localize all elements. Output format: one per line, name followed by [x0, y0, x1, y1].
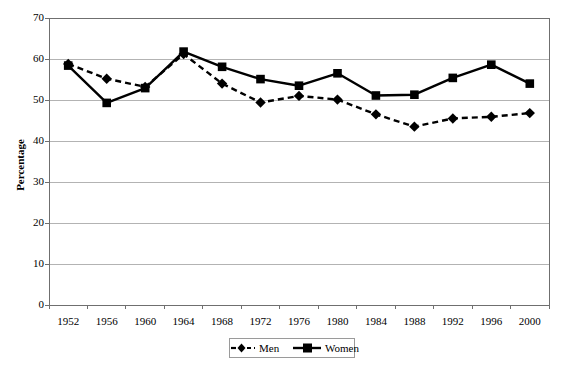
- data-point-men: [332, 94, 342, 104]
- data-point-men: [486, 112, 496, 122]
- data-point-women: [410, 90, 419, 99]
- data-point-women: [295, 81, 304, 90]
- data-point-women: [102, 99, 111, 108]
- data-point-men: [448, 113, 458, 123]
- y-tick-label: 0: [18, 299, 44, 310]
- legend-item-men[interactable]: Men: [230, 339, 279, 357]
- y-tick-label: 40: [18, 135, 44, 146]
- data-point-women: [64, 61, 73, 70]
- data-point-women: [141, 84, 150, 93]
- line-chart: Percentage 010203040506070 1952195619601…: [0, 0, 573, 370]
- data-point-women: [487, 60, 496, 69]
- data-point-women: [449, 74, 458, 83]
- data-point-men: [409, 121, 419, 131]
- data-point-women: [218, 63, 227, 72]
- data-point-women: [256, 75, 265, 84]
- y-tick-label: 10: [18, 258, 44, 269]
- data-point-men: [255, 97, 265, 107]
- y-axis-tick-labels: 010203040506070: [12, 0, 44, 320]
- legend-label-men: Men: [259, 342, 279, 354]
- data-point-women: [179, 47, 188, 56]
- y-tick-label: 50: [18, 94, 44, 105]
- legend: Men Women: [229, 338, 355, 358]
- y-tick-label: 70: [18, 12, 44, 23]
- y-tick-label: 20: [18, 217, 44, 228]
- data-point-women: [526, 79, 535, 88]
- legend-label-women: Women: [325, 342, 359, 354]
- data-point-women: [333, 69, 342, 78]
- y-tick-label: 60: [18, 53, 44, 64]
- y-tick-label: 30: [18, 176, 44, 187]
- x-tick-label: 2000: [507, 315, 553, 327]
- data-point-men: [101, 73, 111, 83]
- legend-women-swatch-icon: [292, 339, 322, 357]
- legend-men-swatch-icon: [230, 339, 256, 357]
- data-point-men: [371, 109, 381, 119]
- data-point-men: [525, 108, 535, 118]
- legend-item-women[interactable]: Women: [292, 339, 359, 357]
- data-point-women: [372, 91, 381, 100]
